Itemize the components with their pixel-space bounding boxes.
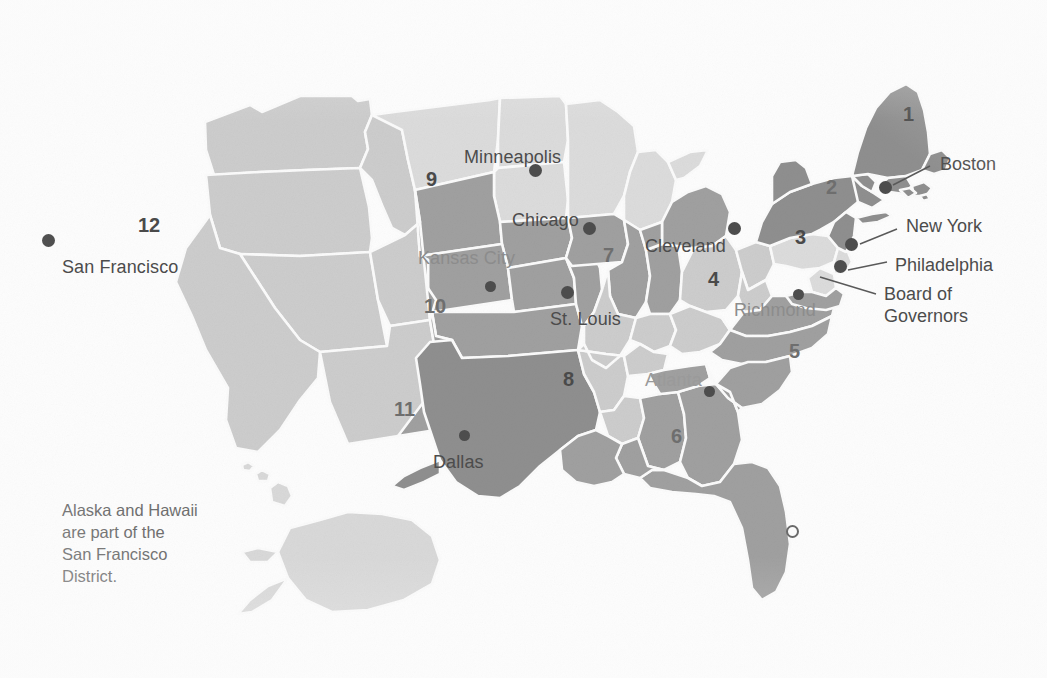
federal-reserve-district-map: 1 2 3 4 5 6 7 8 9 10 11 12 Minneapolis C…	[0, 0, 1047, 678]
city-label-chicago: Chicago	[512, 210, 579, 231]
city-dot-cleveland	[728, 222, 741, 235]
city-label-san-francisco: San Francisco	[62, 257, 178, 278]
city-dot-new-york	[845, 238, 858, 251]
city-dot-miami	[786, 525, 799, 538]
district-number-2: 2	[826, 176, 837, 199]
city-label-atlanta: Atlanta	[645, 370, 702, 391]
city-label-st-louis: St. Louis	[550, 309, 621, 330]
district-number-6: 6	[671, 425, 682, 448]
city-dot-dallas	[459, 430, 470, 441]
district-number-8: 8	[563, 368, 574, 391]
city-label-richmond: Richmond	[734, 300, 816, 321]
city-dot-richmond	[793, 289, 804, 300]
city-dot-boston	[879, 181, 892, 194]
district-number-4: 4	[708, 268, 719, 291]
callout-label-philadelphia: Philadelphia	[895, 255, 993, 277]
callout-label-board-of-governors: Board of Governors	[884, 284, 968, 328]
city-dot-kansas-city	[485, 281, 496, 292]
city-dot-san-francisco	[42, 234, 55, 247]
district-number-10: 10	[424, 295, 446, 318]
district-number-7: 7	[603, 244, 614, 267]
alaska-hawaii-note: Alaska and Hawaii are part of the San Fr…	[62, 500, 198, 588]
district-number-12: 12	[138, 214, 160, 237]
callout-label-new-york: New York	[906, 216, 982, 238]
district-number-9: 9	[426, 168, 437, 191]
city-dot-minneapolis	[529, 164, 542, 177]
city-label-minneapolis: Minneapolis	[464, 147, 561, 168]
city-dot-philadelphia	[834, 260, 847, 273]
city-label-kansas-city: Kansas City	[418, 248, 515, 269]
district-number-1: 1	[903, 103, 914, 126]
city-label-dallas: Dallas	[433, 452, 484, 473]
city-label-cleveland: Cleveland	[645, 236, 726, 257]
district-number-5: 5	[789, 340, 800, 363]
district-number-11: 11	[394, 398, 415, 421]
city-dot-st-louis	[561, 286, 574, 299]
city-dot-atlanta	[704, 386, 715, 397]
callout-label-boston: Boston	[940, 154, 996, 176]
district-number-3: 3	[795, 226, 806, 249]
city-dot-chicago	[583, 222, 596, 235]
